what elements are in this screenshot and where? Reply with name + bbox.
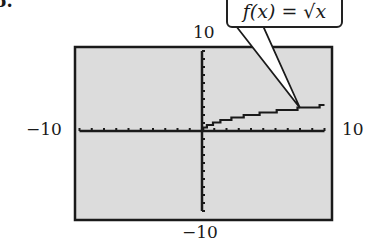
graphing-calculator-screen: [0, 0, 375, 247]
function-callout-label: f(x) = √x: [226, 0, 343, 28]
